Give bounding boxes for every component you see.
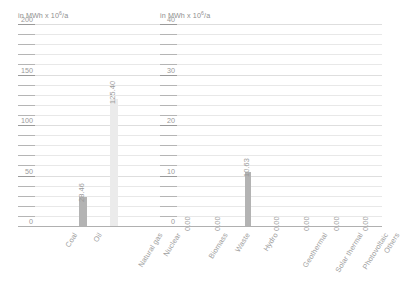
x-axis-baseline (160, 226, 382, 227)
y-axis-tick (160, 54, 177, 55)
x-axis-baseline (18, 226, 160, 227)
x-axis-category-label: Hydro (262, 231, 280, 253)
gridline-minor (18, 206, 160, 207)
gridline-minor (18, 85, 160, 86)
y-axis-tick-label: 50 (18, 167, 33, 176)
y-axis-tick-label: 200 (18, 15, 33, 24)
chart-conventional-energy: in MWh x 106/a 050100150200Coal28.46Oil1… (0, 0, 165, 295)
bar-value-label: 0.00 (302, 216, 311, 231)
bar-value-label: 0.00 (272, 216, 281, 231)
gridline-minor (18, 44, 160, 45)
y-axis-tick-label: 20 (160, 116, 175, 125)
bar-value-label: 0.00 (213, 216, 222, 231)
gridline-minor (160, 34, 382, 35)
y-axis-tick (160, 75, 177, 76)
y-axis-tick (18, 75, 35, 76)
y-axis-tick (18, 206, 35, 207)
y-axis-tick (160, 145, 177, 146)
y-axis-tick (18, 105, 35, 106)
y-axis-tick (18, 176, 35, 177)
gridline-minor (160, 186, 382, 187)
left-plot-area: 050100150200Coal28.46Oil125.40Natural ga… (18, 24, 160, 226)
y-axis-tick (18, 44, 35, 45)
y-axis-tick-label: 100 (18, 116, 33, 125)
bar-value-label: 28.46 (77, 183, 86, 202)
y-axis-tick (160, 34, 177, 35)
x-axis-category-label: Waste (233, 231, 252, 254)
gridline-minor (160, 85, 382, 86)
gridline-major (160, 75, 382, 76)
y-axis-tick (18, 24, 35, 25)
y-axis-tick-label: 0 (160, 217, 175, 226)
gridline-minor (160, 115, 382, 116)
y-axis-tick-label: 10 (160, 167, 175, 176)
y-axis-tick (160, 155, 177, 156)
y-axis-tick (18, 186, 35, 187)
y-axis-tick (18, 125, 35, 126)
gridline-minor (160, 196, 382, 197)
y-axis-tick (160, 44, 177, 45)
y-axis-tick (18, 145, 35, 146)
gridline-minor (160, 44, 382, 45)
gridline-major (18, 75, 160, 76)
gridline-minor (18, 165, 160, 166)
gridline-major (18, 24, 160, 25)
gridline-minor (18, 54, 160, 55)
gridline-minor (160, 95, 382, 96)
gridline-minor (18, 115, 160, 116)
right-plot-area: 0102030400.00Biomass0.00Waste10.63Hydro0… (160, 24, 382, 226)
y-axis-tick (18, 95, 35, 96)
x-axis-category-label: Geothermal (301, 231, 330, 269)
y-axis-tick (160, 125, 177, 126)
y-axis-tick-label: 30 (160, 66, 175, 75)
gridline-major (160, 176, 382, 177)
chart-renewable-energy: in MWh x 106/a 0102030400.00Biomass0.00W… (150, 0, 391, 295)
gridline-minor (160, 135, 382, 136)
gridline-minor (18, 186, 160, 187)
gridline-minor (160, 206, 382, 207)
gridline-minor (160, 54, 382, 55)
gridline-minor (18, 145, 160, 146)
gridline-major (18, 125, 160, 126)
gridline-major (160, 125, 382, 126)
y-axis-tick-label: 40 (160, 15, 175, 24)
y-axis-tick (160, 135, 177, 136)
gridline-minor (18, 135, 160, 136)
x-axis-category-label: Solar thermal (333, 231, 365, 274)
gridline-minor (160, 155, 382, 156)
gridline-major (18, 176, 160, 177)
bar-value-label: 0.00 (183, 216, 192, 231)
bar-value-label: 0.00 (361, 216, 370, 231)
gridline-minor (18, 216, 160, 217)
y-axis-tick (18, 155, 35, 156)
y-axis-tick (160, 105, 177, 106)
bar (245, 172, 251, 226)
gridline-major (160, 24, 382, 25)
gridline-minor (18, 155, 160, 156)
y-axis-tick (160, 95, 177, 96)
gridline-minor (18, 95, 160, 96)
x-axis-category-label: Biomass (206, 231, 229, 260)
x-axis-category-label: Oil (91, 231, 104, 244)
gridline-minor (160, 64, 382, 65)
y-axis-tick (160, 85, 177, 86)
y-axis-tick (160, 186, 177, 187)
gridline-minor (160, 165, 382, 166)
y-axis-tick (18, 85, 35, 86)
gridline-minor (18, 64, 160, 65)
y-axis-tick (18, 34, 35, 35)
y-axis-tick (18, 135, 35, 136)
bar-value-label: 10.63 (242, 158, 251, 177)
y-axis-tick (160, 206, 177, 207)
gridline-minor (160, 145, 382, 146)
y-axis-tick (160, 196, 177, 197)
y-axis-tick (160, 176, 177, 177)
gridline-minor (18, 196, 160, 197)
bar-value-label: 0.00 (332, 216, 341, 231)
x-axis-category-label: Coal (63, 231, 79, 249)
gridline-minor (18, 105, 160, 106)
y-axis-tick-label: 150 (18, 66, 33, 75)
y-axis-tick (160, 24, 177, 25)
bar (110, 99, 118, 226)
